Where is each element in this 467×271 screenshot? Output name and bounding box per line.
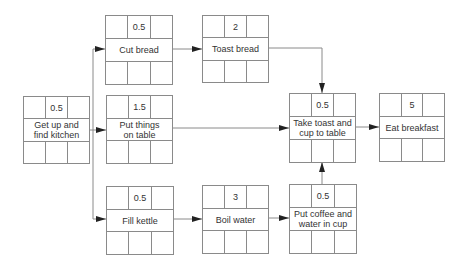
activity-label: Toast bread [203,38,268,59]
cell [107,232,128,254]
cell [107,96,128,118]
cell [290,185,311,207]
duration: 2 [224,16,246,37]
cell [422,94,444,116]
cell [24,142,45,163]
cell [290,231,311,253]
activity-label: Eat breakfast [380,117,444,139]
cell [290,140,311,162]
duration: 0.5 [311,94,333,116]
cell [203,186,224,208]
cell [246,16,268,37]
node-toast-bread[interactable]: 2 Toast bread [202,15,269,83]
cell [380,139,401,161]
node-get-up[interactable]: 0.5 Get up andfind kitchen [23,96,90,164]
cell [334,231,356,253]
cell [106,62,127,84]
node-fill-kettle[interactable]: 0.5 Fill kettle [106,186,174,255]
activity-label: Take toast andcup to table [290,117,355,139]
duration: 0.5 [128,187,150,209]
cell [401,139,423,161]
cell [150,96,172,118]
cell [151,187,173,209]
node-cut-bread[interactable]: 0.5 Cut bread [105,15,173,85]
cell [67,97,89,118]
cell [151,232,173,254]
edge-toast-bread-to-take-toast [268,48,322,93]
node-put-things[interactable]: 1.5 Put thingson table [106,95,173,164]
duration: 0.5 [311,185,333,207]
cell [246,61,268,82]
cell [246,231,268,253]
cell [224,231,246,253]
node-boil-water[interactable]: 3 Boil water [202,185,269,254]
cell [333,94,355,116]
cell [67,142,89,163]
node-take-toast[interactable]: 0.5 Take toast andcup to table [289,93,356,163]
cell [128,141,150,163]
cell [107,141,128,163]
duration: 3 [224,186,246,208]
cell [380,94,401,116]
cell [24,97,45,118]
cell [422,139,444,161]
cell [334,185,356,207]
duration: 5 [401,94,423,116]
activity-label: Cut bread [106,39,172,61]
cell [150,62,172,84]
activity-label: Put thingson table [107,119,172,141]
node-eat-breakfast[interactable]: 5 Eat breakfast [379,93,445,162]
cell [150,141,172,163]
activity-label: Get up andfind kitchen [24,119,89,140]
cell [107,187,128,209]
activity-label: Fill kettle [107,210,173,232]
cell [333,140,355,162]
cell [290,94,311,116]
cell [203,231,224,253]
duration: 0.5 [45,97,67,118]
cell [224,61,246,82]
cell [203,16,224,37]
activity-label: Boil water [203,209,268,231]
activity-label: Put coffee andwater in cup [290,208,356,230]
duration: 0.5 [127,16,149,38]
cell [106,16,127,38]
node-put-coffee[interactable]: 0.5 Put coffee andwater in cup [289,184,357,254]
cell [127,62,149,84]
cell [45,142,67,163]
cell [246,186,268,208]
cell [311,140,333,162]
cell [203,61,224,82]
duration: 1.5 [128,96,150,118]
cell [150,16,172,38]
cell [311,231,333,253]
cell [128,232,150,254]
